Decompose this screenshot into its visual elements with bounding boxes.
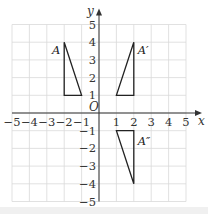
y-axis-arrow-icon bbox=[96, 9, 102, 16]
y-tick-label: −4 bbox=[79, 177, 96, 191]
y-tick-label: 1 bbox=[89, 88, 96, 102]
y-tick-label: −2 bbox=[79, 141, 96, 155]
y-tick-label: 3 bbox=[89, 53, 96, 67]
y-axis-label: y bbox=[86, 4, 94, 18]
x-axis-label: x bbox=[198, 114, 205, 128]
x-tick-label: 2 bbox=[130, 115, 137, 129]
x-tick-label: −5 bbox=[4, 115, 21, 129]
triangle-a-prime bbox=[116, 42, 133, 95]
y-tick-label: 4 bbox=[89, 35, 96, 49]
label-a-prime: A′ bbox=[137, 43, 149, 57]
triangle-a bbox=[64, 42, 81, 95]
x-tick-label: 5 bbox=[182, 115, 189, 129]
label-a-double-prime: A″ bbox=[137, 134, 151, 148]
label-a: A bbox=[51, 43, 60, 57]
x-tick-label: 4 bbox=[165, 115, 172, 129]
axes: xyO bbox=[12, 4, 205, 202]
y-tick-label: −1 bbox=[79, 124, 96, 138]
triangle-a-double-prime bbox=[116, 131, 133, 184]
x-tick-label: −4 bbox=[21, 115, 38, 129]
y-tick-label: 2 bbox=[89, 71, 96, 85]
y-tick-label: −3 bbox=[79, 159, 96, 173]
x-tick-label: −3 bbox=[38, 115, 55, 129]
x-tick-label: 3 bbox=[148, 115, 155, 129]
bottom-strip bbox=[0, 207, 208, 214]
x-tick-label: 1 bbox=[113, 115, 120, 129]
y-tick-label: 5 bbox=[89, 18, 96, 32]
coordinate-plane: xyO −5−4−3−2−11234554321−1−2−3−4−5 AA′A″ bbox=[0, 0, 208, 214]
x-tick-label: −2 bbox=[56, 115, 73, 129]
